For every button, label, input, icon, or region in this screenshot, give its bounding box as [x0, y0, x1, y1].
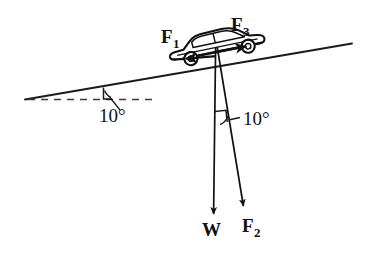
force-label-f2: F2	[242, 216, 261, 239]
force-label-w-symbol: W	[202, 219, 221, 240]
force-vector-f2	[217, 47, 243, 206]
force-label-f2-symbol: F	[242, 215, 254, 236]
force-label-f1-subscript: 1	[173, 36, 180, 51]
vector-angle-label: 10°	[243, 109, 270, 128]
vector-angle-leader-line	[229, 118, 241, 121]
incline-angle-arc	[105, 91, 111, 98]
force-label-f3-subscript: 3	[243, 24, 250, 39]
physics-figure: F1 F3 W F2 10° 10°	[0, 0, 377, 254]
force-label-f3: F3	[231, 15, 250, 38]
incline-angle-label: 10°	[99, 106, 126, 125]
force-vector-w	[214, 47, 216, 214]
force-label-f1: F1	[161, 27, 180, 50]
force-label-f3-symbol: F	[231, 14, 243, 35]
force-label-f1-symbol: F	[161, 26, 173, 47]
figure-canvas	[0, 0, 377, 254]
force-label-w: W	[202, 220, 221, 239]
force-label-f2-subscript: 2	[254, 225, 261, 240]
